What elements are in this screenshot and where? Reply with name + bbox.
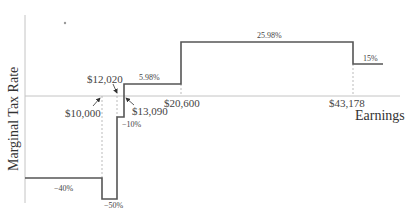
arrow-13090 — [126, 98, 134, 105]
label-rate-neg50: −50% — [104, 201, 124, 210]
stray-dot-marker — [64, 22, 66, 24]
tax-rate-chart: −40% −50% −10% 5.98% 25.98% 15% $10,000 … — [0, 0, 414, 215]
label-bp-20600: $20,600 — [164, 97, 200, 109]
y-axis-title: Marginal Tax Rate — [6, 67, 21, 171]
label-rate-5-98: 5.98% — [139, 73, 160, 82]
marginal-rate-step-line — [25, 42, 383, 199]
label-bp-12020: $12,020 — [87, 73, 123, 85]
label-bp-10000: $10,000 — [65, 107, 101, 119]
x-axis-title: Earnings — [355, 108, 405, 123]
arrow-12020 — [113, 84, 117, 93]
label-rate-15: 15% — [363, 54, 378, 63]
label-rate-neg40: −40% — [54, 184, 74, 193]
label-rate-25-98: 25.98% — [257, 31, 282, 40]
label-bp-13090: $13,090 — [132, 105, 168, 117]
label-rate-neg10: −10% — [122, 120, 142, 129]
arrow-10000 — [93, 98, 100, 106]
